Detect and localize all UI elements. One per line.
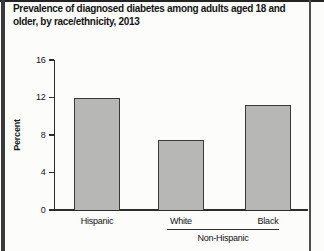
y-axis-label: Percent [12,119,22,151]
top-border [0,0,324,2]
y-tick-label: 0 [26,205,46,215]
group-underline [167,229,279,230]
y-tick-mark [49,97,54,98]
bar-black [245,105,291,210]
figure-title-line-1: Prevalence of diagnosed diabetes among a… [13,3,311,16]
right-border [309,0,311,251]
y-tick-mark [49,134,54,135]
y-tick-mark [49,172,54,173]
y-tick-label: 16 [26,55,46,65]
y-tick-mark [49,59,54,60]
y-tick-label: 4 [26,167,46,177]
y-axis-line [54,60,55,210]
figure-title: Prevalence of diagnosed diabetes among a… [13,3,311,28]
group-label: Non-Hispanic [197,233,248,243]
category-label-black: Black [258,216,279,226]
left-border [1,0,5,251]
bar-hispanic [74,98,120,211]
bar-white [158,140,204,210]
figure-card: Prevalence of diagnosed diabetes among a… [0,0,324,251]
figure-title-line-2: older, by race/ethnicity, 2013 [13,16,311,29]
y-tick-label: 12 [26,92,46,102]
category-label-hispanic: Hispanic [81,216,114,226]
y-tick-mark [49,209,54,210]
y-tick-label: 8 [26,130,46,140]
category-label-white: White [170,216,192,226]
